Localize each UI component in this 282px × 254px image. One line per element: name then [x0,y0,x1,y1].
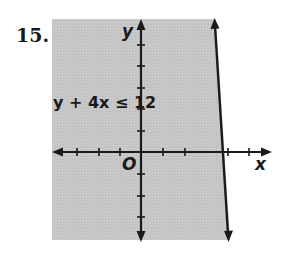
inequality-graph: y x O y + 4x ≤ 12 [0,0,282,254]
origin-label: O [122,154,136,174]
y-axis-label: y [122,21,134,41]
inequality-label: y + 4x ≤ 12 [53,93,156,112]
x-axis-label: x [254,154,267,174]
